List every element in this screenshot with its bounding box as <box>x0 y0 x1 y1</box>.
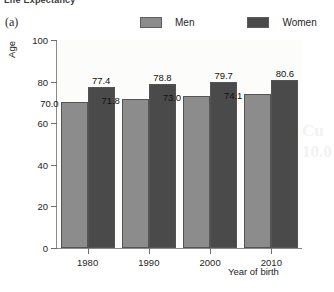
x-axis-tick <box>271 248 272 254</box>
y-axis-tick <box>51 123 57 124</box>
x-axis-tick <box>88 248 89 254</box>
y-axis-tick <box>51 165 57 166</box>
legend-item-men: Men <box>140 17 194 28</box>
value-label-men-1990: 71.8 <box>101 94 122 105</box>
bar-men-1990 <box>122 99 149 248</box>
plot-area: 02040608010070.077.4198071.878.8199073.0… <box>56 40 302 249</box>
bar-women-2000 <box>210 82 237 248</box>
value-label-women-2000: 79.7 <box>214 70 233 82</box>
y-axis-tick-label: 0 <box>43 243 48 254</box>
y-axis-tick-label: 40 <box>37 159 48 170</box>
legend-item-women: Women <box>247 17 316 28</box>
x-axis-tick <box>149 248 150 254</box>
x-axis-tick-label: 2000 <box>200 257 221 268</box>
value-label-women-2010: 80.6 <box>276 68 295 80</box>
y-axis-tick-label: 20 <box>37 201 48 212</box>
x-axis-tick-label: 1980 <box>77 257 98 268</box>
legend-swatch-women-icon <box>247 17 269 28</box>
page-bleed-through: Cu10.0 <box>302 120 332 240</box>
legend-swatch-men-icon <box>140 17 162 28</box>
y-axis-tick <box>51 206 57 207</box>
value-label-men-2010: 74.1 <box>224 89 245 100</box>
legend-label-men: Men <box>175 17 194 28</box>
value-label-men-1980: 70.0 <box>40 98 61 109</box>
y-axis-tick-label: 60 <box>37 118 48 129</box>
chart-legend: Men Women <box>140 17 317 28</box>
legend-label-women: Women <box>282 17 316 28</box>
x-axis-tick-label: 1990 <box>138 257 159 268</box>
y-axis-tick <box>51 82 57 83</box>
y-axis-tick-label: 80 <box>37 76 48 87</box>
life-expectancy-figure: Life Expectancy (a) Men Women Age 020406… <box>0 0 334 292</box>
bar-women-1990 <box>149 84 176 248</box>
x-axis-title: Year of birth <box>228 266 279 277</box>
y-axis-tick <box>51 248 57 249</box>
panel-label: (a) <box>5 15 18 30</box>
bar-women-2010 <box>271 80 298 248</box>
value-label-women-1980: 77.4 <box>92 75 111 87</box>
bar-men-1980 <box>61 102 88 248</box>
value-label-women-1990: 78.8 <box>153 72 172 84</box>
y-axis-title: Age <box>6 35 17 65</box>
bar-men-2010 <box>244 94 271 248</box>
x-axis-tick <box>210 248 211 254</box>
bar-women-1980 <box>88 87 115 248</box>
y-axis-tick <box>51 40 57 41</box>
bar-men-2000 <box>183 96 210 248</box>
title-crop-mask <box>0 5 334 14</box>
y-axis-tick-label: 100 <box>32 35 48 46</box>
value-label-men-2000: 73.0 <box>163 92 184 103</box>
